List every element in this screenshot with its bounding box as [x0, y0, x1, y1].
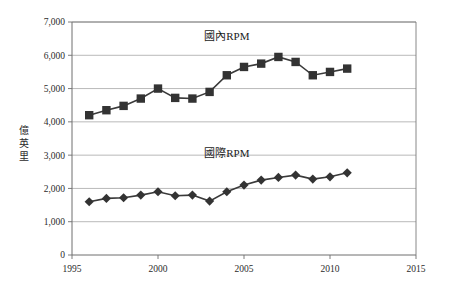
data-point-0-4 [154, 84, 162, 92]
data-point-1-5 [171, 191, 180, 200]
y-tick-label-2000: 2,000 [44, 184, 66, 194]
x-tick-label-1995: 1995 [63, 264, 82, 274]
y-tick-label-7000: 7,000 [44, 17, 66, 27]
data-point-1-11 [274, 173, 283, 182]
x-tick-label-2000: 2000 [149, 264, 168, 274]
data-point-0-0 [85, 111, 93, 119]
y-axis-title-char-0: 億 [19, 124, 29, 136]
data-point-1-3 [136, 190, 145, 199]
series-annotation-international: 國際RPM [204, 147, 249, 159]
y-tick-label-6000: 6,000 [44, 51, 66, 61]
x-tick-label-2005: 2005 [235, 264, 254, 274]
data-point-0-12 [291, 58, 299, 66]
x-tick-label-2015: 2015 [407, 264, 426, 274]
y-tick-label-5000: 5,000 [44, 84, 66, 94]
data-point-1-7 [205, 196, 214, 205]
data-point-1-0 [85, 197, 94, 206]
series-line-0 [89, 57, 347, 115]
data-point-0-5 [171, 94, 179, 102]
y-tick-label-0: 0 [60, 250, 65, 260]
x-axis-tick-labels-group: 19952000200520102015 [63, 264, 426, 274]
series-line-1 [89, 173, 347, 202]
rpm-line-chart: 01,0002,0003,0004,0005,0006,0007,000 199… [0, 0, 450, 298]
data-point-0-9 [240, 63, 248, 71]
y-axis-title-char-1: 英 [19, 137, 29, 149]
data-point-0-3 [137, 94, 145, 102]
gridlines-group [72, 22, 416, 222]
data-point-0-8 [223, 71, 231, 79]
data-point-1-15 [343, 168, 352, 177]
data-point-1-2 [119, 193, 128, 202]
plot-frame [72, 22, 416, 255]
data-point-0-1 [102, 106, 110, 114]
data-point-0-10 [257, 59, 265, 67]
y-axis-title-char-2: 里 [19, 151, 29, 162]
data-point-1-10 [257, 176, 266, 185]
data-point-0-11 [274, 53, 282, 61]
data-point-1-1 [102, 194, 111, 203]
chart-container: 01,0002,0003,0004,0005,0006,0007,000 199… [0, 0, 450, 298]
data-point-0-13 [309, 71, 317, 79]
data-point-0-15 [343, 64, 351, 72]
data-point-1-13 [308, 175, 317, 184]
data-point-1-6 [188, 190, 197, 199]
data-point-0-7 [205, 88, 213, 96]
data-point-0-14 [326, 68, 334, 76]
y-axis-title-group: 億英里 [19, 124, 29, 162]
series-domestic [85, 53, 351, 120]
data-point-0-6 [188, 94, 196, 102]
x-axis-ticks-group [72, 255, 416, 259]
data-series-group [85, 53, 352, 207]
y-axis-tick-labels-group: 01,0002,0003,0004,0005,0006,0007,000 [44, 17, 72, 260]
data-point-1-14 [325, 172, 334, 181]
series-annotation-domestic: 國內RPM [204, 30, 249, 42]
data-point-0-2 [119, 102, 127, 110]
y-tick-label-1000: 1,000 [44, 217, 66, 227]
series-international [85, 168, 352, 206]
y-tick-label-4000: 4,000 [44, 117, 66, 127]
y-tick-label-3000: 3,000 [44, 151, 66, 161]
x-tick-label-2010: 2010 [321, 264, 340, 274]
data-point-1-12 [291, 171, 300, 180]
